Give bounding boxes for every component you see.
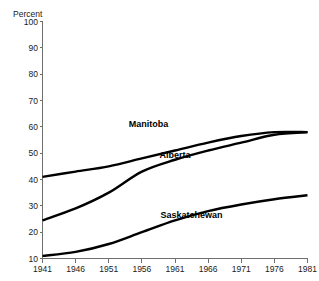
y-tick-label: 50 <box>29 148 39 158</box>
x-tick-label: 1951 <box>99 264 118 274</box>
y-axis-tick-labels: 100908070605040302010 <box>24 17 38 264</box>
y-tick-label: 40 <box>29 175 39 185</box>
chart-container: Percent 100908070605040302010 1941194619… <box>0 0 319 281</box>
series-label-manitoba: Manitoba <box>129 119 169 129</box>
x-axis-tick-labels: 194119461951195619611966197119761981 <box>33 264 317 274</box>
y-tick-label: 10 <box>29 254 39 264</box>
y-tick-label: 90 <box>29 43 39 53</box>
x-tick-label: 1956 <box>132 264 151 274</box>
series-line-alberta <box>43 132 308 220</box>
x-tick-label: 1976 <box>265 264 284 274</box>
y-tick-label: 80 <box>29 69 39 79</box>
series-label-alberta: Alberta <box>159 150 191 160</box>
y-tick-label: 60 <box>29 122 39 132</box>
y-tick-label: 20 <box>29 227 39 237</box>
x-tick-label: 1961 <box>166 264 185 274</box>
y-tick-label: 30 <box>29 201 39 211</box>
x-tick-label: 1966 <box>199 264 218 274</box>
x-tick-label: 1946 <box>66 264 85 274</box>
x-tick-label: 1981 <box>298 264 317 274</box>
x-axis-tick-marks <box>43 259 308 263</box>
line-chart: Percent 100908070605040302010 1941194619… <box>0 0 319 281</box>
series-label-saskatchewan: Saskatchewan <box>161 210 223 220</box>
series-annotations: ManitobaAlbertaSaskatchewan <box>129 119 223 220</box>
y-tick-label: 70 <box>29 96 39 106</box>
x-tick-label: 1971 <box>232 264 251 274</box>
y-tick-label: 100 <box>24 17 38 27</box>
x-tick-label: 1941 <box>33 264 52 274</box>
